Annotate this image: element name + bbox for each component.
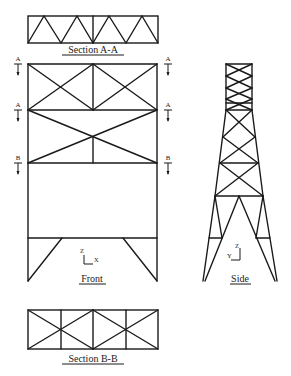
structure-drawing: Section A-A Z X Front	[0, 0, 291, 376]
marker-a-mid-right: A	[165, 101, 170, 109]
section-aa-title: Section A-A	[68, 44, 118, 55]
section-bb-title: Section B-B	[68, 353, 117, 364]
front-axis-indicator: Z X	[80, 247, 99, 264]
marker-a-top-right: A	[165, 55, 170, 63]
side-axis-z: Z	[235, 242, 239, 249]
section-markers-left: A A B	[14, 55, 22, 175]
marker-a-mid-left: A	[15, 101, 20, 109]
marker-a-top-left: A	[15, 55, 20, 63]
marker-b-right: B	[166, 154, 171, 162]
side-axis-indicator: Z Y	[227, 242, 240, 260]
section-markers-right: A A B	[164, 55, 172, 175]
section-bb-view: Section B-B	[28, 310, 158, 364]
front-view-title: Front	[81, 273, 103, 284]
front-axis-x: X	[94, 256, 99, 263]
front-axis-z: Z	[80, 247, 84, 254]
side-view-title: Side	[231, 273, 249, 284]
side-axis-y: Y	[227, 252, 232, 259]
marker-b-left: B	[16, 154, 21, 162]
front-view: Z X Front	[28, 64, 157, 284]
side-view: Z Y Side	[203, 64, 277, 284]
section-aa-view: Section A-A	[28, 16, 158, 55]
